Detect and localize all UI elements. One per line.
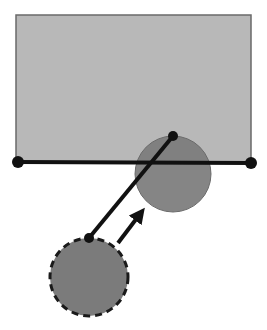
baseline-right-endpoint bbox=[245, 157, 257, 169]
diagram-canvas bbox=[0, 0, 267, 330]
horizontal-baseline bbox=[18, 162, 251, 163]
solid-circle-final-position bbox=[135, 136, 211, 212]
dashed-circle-initial-position bbox=[50, 238, 128, 316]
rod-bottom-pivot bbox=[84, 233, 94, 243]
movement-arrow-icon bbox=[118, 214, 140, 243]
baseline-left-endpoint bbox=[12, 156, 24, 168]
gray-rectangle bbox=[16, 15, 251, 162]
diagram-svg bbox=[0, 0, 267, 330]
rod-top-pivot bbox=[168, 131, 178, 141]
